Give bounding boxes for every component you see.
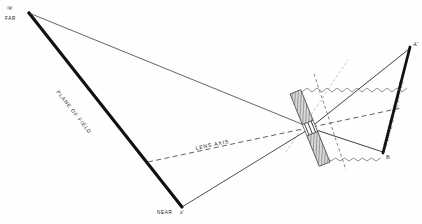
lens-board-upper xyxy=(290,90,313,125)
scheimpflug-diagram: ∞ FAR NEAR a' PLANE OF FIELD LENS AXIS P… xyxy=(0,0,422,224)
point-a-prime-label: A' xyxy=(413,41,418,47)
lower-zigzag-ray xyxy=(322,158,381,161)
lens-board[interactable] xyxy=(290,90,330,167)
far-vertex-point xyxy=(28,12,31,15)
near-label: NEAR xyxy=(157,210,173,215)
lens-board-lower xyxy=(307,131,330,166)
a-prime-vertex-point xyxy=(409,47,411,49)
upper-zigzag-ray xyxy=(302,88,407,92)
far-label: FAR xyxy=(5,16,16,21)
lens-axis-label: LENS AXIS xyxy=(195,138,230,151)
near-point-label: a' xyxy=(180,209,183,215)
ray-near-to-lens xyxy=(182,129,309,207)
point-b-label: B xyxy=(386,154,390,160)
b-vertex-point xyxy=(382,151,384,153)
diagram-canvas: ∞ FAR NEAR a' PLANE OF FIELD LENS AXIS P… xyxy=(0,0,422,224)
plane-of-field-line xyxy=(29,13,182,207)
lens-axis-dashed-line xyxy=(148,108,401,162)
plane-of-field-label: PLANE OF FIELD xyxy=(55,89,93,135)
infinity-label: ∞ xyxy=(7,3,13,12)
